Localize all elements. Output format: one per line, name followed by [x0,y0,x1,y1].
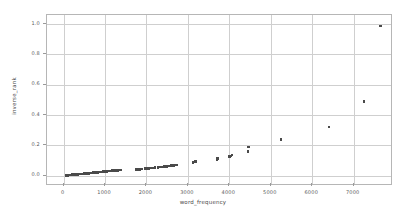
y-tick-mark [43,144,46,145]
y-axis-label: inverse_rank [11,66,17,126]
y-tick-label: 0.0 [18,171,40,177]
x-axis-label: word_frequency [0,199,406,205]
scatter-point [140,168,143,171]
scatter-points-layer [47,15,391,184]
scatter-point [328,126,331,129]
y-tick-mark [43,114,46,115]
scatter-point [216,157,219,160]
x-tick-mark [353,183,354,186]
x-tick-label: 5000 [255,189,285,195]
scatter-point [379,25,382,28]
x-tick-label: 1000 [89,189,119,195]
plot-area [46,14,392,185]
x-tick-mark [228,183,229,186]
scatter-point [280,138,283,141]
x-tick-label: 7000 [338,189,368,195]
x-tick-label: 3000 [172,189,202,195]
x-tick-label: 0 [48,189,78,195]
scatter-point [120,169,123,172]
scatter-point [194,160,197,163]
scatter-chart-figure: 01000200030004000500060007000 0.00.20.40… [0,0,406,215]
x-tick-mark [311,183,312,186]
scatter-point [363,100,366,103]
x-tick-label: 4000 [213,189,243,195]
y-tick-label: 0.6 [18,80,40,86]
x-tick-label: 2000 [130,189,160,195]
y-tick-label: 1.0 [18,20,40,26]
y-tick-label: 0.2 [18,141,40,147]
scatter-point [247,146,250,149]
x-tick-label: 6000 [296,189,326,195]
y-tick-label: 0.4 [18,111,40,117]
scatter-point [176,164,179,167]
y-tick-mark [43,175,46,176]
y-tick-mark [43,84,46,85]
x-tick-mark [145,183,146,186]
scatter-point [247,150,250,153]
y-tick-mark [43,53,46,54]
x-tick-mark [270,183,271,186]
y-tick-mark [43,23,46,24]
x-tick-mark [187,183,188,186]
x-tick-mark [63,183,64,186]
y-tick-label: 0.8 [18,50,40,56]
x-tick-mark [104,183,105,186]
scatter-point [231,154,234,157]
